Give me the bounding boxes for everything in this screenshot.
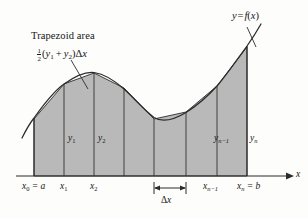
x-tick-x1-subscript: 1 bbox=[64, 185, 67, 192]
delta-x-arrowhead-right bbox=[180, 185, 186, 190]
trapezoid-area-annotation-formula: 1 2 (y1 + y2)Δx bbox=[37, 47, 87, 62]
ordinate-label-y1: y1 bbox=[68, 134, 75, 144]
formula-delta-x-variable: x bbox=[82, 48, 87, 59]
x-tick-xn-1-subscript: n−1 bbox=[207, 185, 218, 192]
delta-x-label-variable: x bbox=[167, 195, 171, 205]
x-tick-x0-suffix: = a bbox=[29, 181, 45, 191]
fraction-denominator: 2 bbox=[37, 54, 41, 62]
x-tick-label-x1: x1 bbox=[60, 182, 67, 192]
x-tick-label-x0: x0 = a bbox=[22, 182, 45, 192]
ordinate-label-yn: yn bbox=[250, 134, 257, 144]
trapezoid-area-annotation-title: Trapezoid area bbox=[31, 31, 95, 42]
x-tick-xn-suffix: = b bbox=[244, 181, 260, 191]
x-tick-label-x2: x2 bbox=[90, 182, 97, 192]
ordinate-label-yn-1: yn−1 bbox=[214, 134, 229, 144]
delta-x-bracket bbox=[154, 182, 186, 194]
x-tick-label-xn: xn = b bbox=[237, 182, 260, 192]
curve-equation-label: y = f(x) bbox=[232, 11, 259, 22]
ordinate-label-yn-1-subscript: n−1 bbox=[218, 137, 229, 144]
delta-x-arrowhead-left bbox=[154, 185, 160, 190]
x-axis-label: x bbox=[296, 170, 300, 180]
x-tick-label-xn-1: xn−1 bbox=[203, 182, 218, 192]
ordinate-label-y2-subscript: 2 bbox=[102, 137, 105, 144]
ordinate-label-yn-subscript: n bbox=[254, 137, 257, 144]
trapezoidal-rule-figure: Trapezoid area 1 2 (y1 + y2)Δx y = f(x) … bbox=[0, 0, 308, 219]
fraction-numerator: 1 bbox=[37, 47, 41, 54]
ordinate-label-y1-subscript: 1 bbox=[72, 137, 75, 144]
x-axis-arrowhead bbox=[286, 172, 294, 179]
delta-x-label: Δx bbox=[161, 196, 171, 206]
ordinate-label-y2: y2 bbox=[98, 134, 105, 144]
curve-label-close-paren: ) bbox=[255, 10, 259, 21]
x-tick-x2-subscript: 2 bbox=[94, 185, 97, 192]
one-half-fraction: 1 2 bbox=[37, 47, 41, 62]
shaded-trapezoid-region bbox=[34, 47, 247, 176]
